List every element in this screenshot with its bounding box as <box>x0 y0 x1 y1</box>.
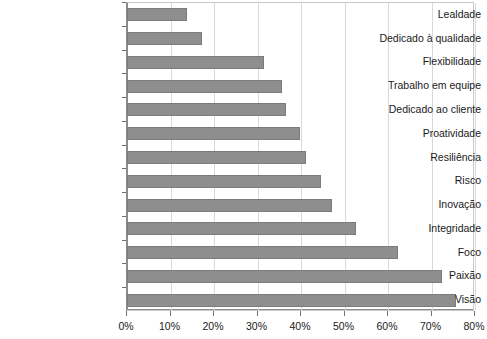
x-axis-label: 60% <box>376 320 397 332</box>
x-axis-tick <box>344 311 345 316</box>
x-axis-label: 0% <box>118 320 133 332</box>
category-label: Visão <box>363 293 481 305</box>
x-axis-label: 20% <box>202 320 223 332</box>
y-axis-tick <box>122 97 126 98</box>
x-axis-tick <box>126 311 127 316</box>
x-axis-label: 30% <box>246 320 267 332</box>
category-label: Paixão <box>363 269 481 281</box>
y-axis-tick <box>122 168 126 169</box>
category-label: Proatividade <box>363 127 481 139</box>
x-axis-label: 80% <box>463 320 484 332</box>
y-axis-tick <box>122 50 126 51</box>
x-axis-tick <box>170 311 171 316</box>
y-axis-tick <box>122 263 126 264</box>
category-label: Dedicado ao cliente <box>363 103 481 115</box>
category-label: Integridade <box>363 222 481 234</box>
x-axis-tick <box>431 311 432 316</box>
bar <box>127 56 264 69</box>
category-label: Trabalho em equipe <box>363 79 481 91</box>
category-label: Flexibilidade <box>363 55 481 67</box>
bar <box>127 80 282 93</box>
bar <box>127 199 332 212</box>
y-axis-tick <box>122 2 126 3</box>
x-axis-tick <box>213 311 214 316</box>
bar <box>127 175 321 188</box>
bar <box>127 222 356 235</box>
category-label: Lealdade <box>363 8 481 20</box>
bar-chart: LealdadeDedicado à qualidadeFlexibilidad… <box>0 0 487 339</box>
y-axis-tick <box>122 216 126 217</box>
y-axis-tick <box>122 145 126 146</box>
y-axis-tick <box>122 73 126 74</box>
y-axis-tick <box>122 240 126 241</box>
x-axis-line <box>127 309 473 310</box>
category-label: Dedicado à qualidade <box>363 32 481 44</box>
x-axis-tick <box>300 311 301 316</box>
category-label: Foco <box>363 246 481 258</box>
bar <box>127 103 286 116</box>
bar <box>127 127 300 140</box>
category-label: Resiliência <box>363 151 481 163</box>
x-axis-label: 50% <box>333 320 354 332</box>
x-axis-tick <box>257 311 258 316</box>
x-axis-label: 40% <box>289 320 310 332</box>
x-axis-label: 70% <box>420 320 441 332</box>
bar <box>127 32 202 45</box>
y-axis-tick <box>122 121 126 122</box>
bar <box>127 8 187 21</box>
y-axis-tick <box>122 192 126 193</box>
y-axis-tick <box>122 287 126 288</box>
y-axis-tick <box>122 26 126 27</box>
category-label: Inovação <box>363 198 481 210</box>
x-axis-tick <box>474 311 475 316</box>
x-axis-label: 10% <box>159 320 180 332</box>
category-label: Risco <box>363 174 481 186</box>
x-axis-tick <box>387 311 388 316</box>
bar <box>127 151 306 164</box>
bar <box>127 246 398 259</box>
